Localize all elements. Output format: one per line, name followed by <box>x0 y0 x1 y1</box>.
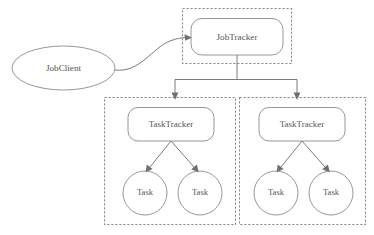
cluster-tasktracker-node-left <box>105 98 236 225</box>
tasktracker-left-label: TaskTracker <box>149 119 194 129</box>
node-task-right-1[interactable]: Task <box>254 171 298 215</box>
node-jobclient[interactable]: JobClient <box>12 46 115 90</box>
node-tasktracker-left[interactable]: TaskTracker <box>128 108 214 142</box>
task-left-2-label: Task <box>192 187 209 197</box>
edge-tasktracker-left-to-task-1 <box>150 141 171 167</box>
task-right-1-label: Task <box>268 187 285 197</box>
edge-tasktracker-left-to-task-2 <box>171 141 194 167</box>
edge-tasktracker-right-to-task-2 <box>302 141 325 167</box>
node-jobtracker[interactable]: JobTracker <box>191 19 283 56</box>
arrowhead-bus-to-tasktracker-right <box>294 93 301 100</box>
task-left-1-label: Task <box>137 187 154 197</box>
arrowhead-bus-to-tasktracker-left <box>172 93 179 100</box>
edge-tasktracker-right-to-task-1 <box>281 141 302 167</box>
jobclient-label: JobClient <box>46 63 82 73</box>
node-task-left-1[interactable]: Task <box>123 171 167 215</box>
task-right-2-label: Task <box>323 187 340 197</box>
node-task-left-2[interactable]: Task <box>178 171 222 215</box>
node-task-right-2[interactable]: Task <box>309 171 353 215</box>
diagram-canvas: JobClient JobTracker TaskTracker TaskTra… <box>0 0 374 235</box>
edge-jobclient-to-jobtracker <box>115 38 187 71</box>
architecture-diagram: JobClient JobTracker TaskTracker TaskTra… <box>0 0 374 235</box>
tasktracker-right-label: TaskTracker <box>280 119 325 129</box>
jobtracker-label: JobTracker <box>217 32 258 42</box>
node-tasktracker-right[interactable]: TaskTracker <box>259 108 345 142</box>
